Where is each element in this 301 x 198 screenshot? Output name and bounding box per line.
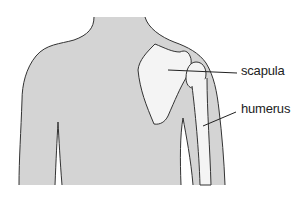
humerus-label: humerus — [241, 101, 290, 116]
scapula-label: scapula — [241, 63, 284, 78]
shoulder-diagram — [0, 0, 301, 198]
